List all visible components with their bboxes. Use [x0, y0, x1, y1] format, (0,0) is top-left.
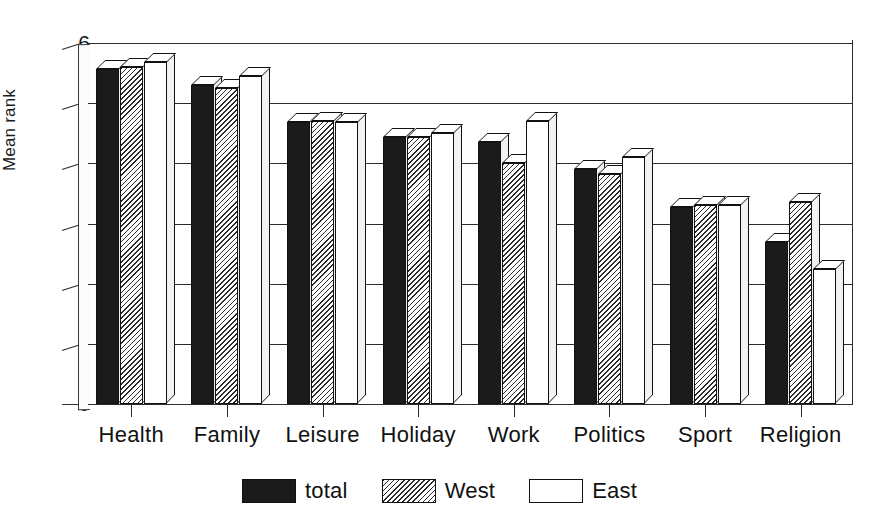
bar-holiday-west	[407, 137, 430, 404]
legend-item-west: West	[382, 478, 496, 504]
y-axis-title: Mean rank	[0, 45, 20, 215]
bar-politics-west	[598, 174, 621, 404]
bar-work-east	[526, 121, 549, 404]
legend-item-total: total	[242, 478, 348, 504]
bar-health-east	[144, 62, 167, 404]
legend-item-east: East	[529, 478, 637, 504]
bar-religion-east	[813, 269, 836, 404]
x-tick-mark-family	[227, 405, 228, 417]
x-tick-mark-sport	[705, 405, 706, 417]
bar-sport-west	[694, 205, 717, 404]
x-axis-line	[88, 404, 853, 405]
bar-family-east	[239, 76, 262, 404]
bar-sport-total	[670, 207, 693, 404]
x-tick-mark-politics	[609, 405, 610, 417]
gridline-6	[88, 43, 853, 44]
bar-politics-east	[622, 157, 645, 404]
bar-side-religion-east	[835, 259, 844, 404]
bar-health-west	[120, 67, 143, 404]
bar-leisure-east	[335, 122, 358, 404]
bar-side-leisure-east	[357, 113, 366, 404]
bar-side-family-east	[261, 67, 270, 404]
hatched-swatch	[382, 479, 436, 503]
bar-work-total	[478, 142, 501, 404]
solid-black-swatch	[242, 479, 296, 503]
bar-side-work-east	[548, 112, 557, 404]
x-tick-mark-work	[514, 405, 515, 417]
x-axis-label-religion: Religion	[741, 422, 861, 448]
bar-side-politics-east	[644, 148, 653, 404]
legend-label-west: West	[445, 478, 496, 504]
chart-legend: total West East	[0, 478, 879, 504]
bar-leisure-west	[311, 121, 334, 404]
bar-side-holiday-east	[453, 124, 462, 404]
bar-politics-total	[574, 169, 597, 404]
bar-holiday-east	[431, 133, 454, 404]
bar-work-west	[502, 163, 525, 404]
x-tick-mark-religion	[801, 405, 802, 417]
chart-screenshot: Mean rank 0123456 total West East Health…	[0, 0, 879, 521]
bar-family-west	[215, 88, 238, 404]
bar-religion-total	[765, 242, 788, 404]
plot-right-border	[852, 40, 853, 405]
bar-leisure-total	[287, 122, 310, 404]
bar-holiday-total	[383, 137, 406, 404]
bar-family-total	[191, 85, 214, 404]
legend-label-east: East	[592, 478, 637, 504]
x-tick-mark-leisure	[323, 405, 324, 417]
bar-health-total	[96, 69, 119, 404]
x-tick-mark-health	[131, 405, 132, 417]
bar-religion-west	[789, 202, 812, 404]
white-swatch	[529, 479, 583, 503]
legend-label-total: total	[305, 478, 348, 504]
bar-sport-east	[718, 205, 741, 404]
bar-side-sport-east	[740, 196, 749, 404]
bar-side-health-east	[166, 53, 175, 404]
x-tick-mark-holiday	[418, 405, 419, 417]
